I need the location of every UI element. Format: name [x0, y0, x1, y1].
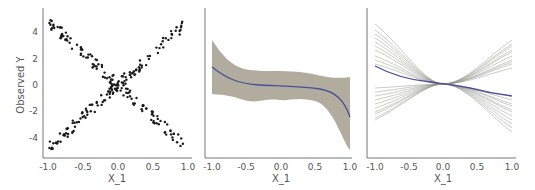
x-tick: -0.5: [74, 162, 92, 172]
x-tick: 0.0: [111, 162, 126, 172]
x-tick: 0.5: [146, 162, 160, 172]
y-tick: 0: [32, 80, 38, 90]
x-tick: 1.0: [343, 162, 358, 172]
y-tick: 2: [32, 54, 38, 64]
x-tick: 0.0: [436, 162, 451, 172]
x-tick: -0.5: [237, 162, 255, 172]
x-tick: 0.0: [274, 162, 289, 172]
x-tick: -1.0: [203, 162, 221, 172]
sample-curves: [375, 24, 512, 132]
x-tick: -1.0: [39, 162, 57, 172]
y-tick: 4: [32, 27, 38, 37]
x-tick: 1.0: [181, 162, 196, 172]
x-tick: 0.5: [308, 162, 322, 172]
x-tick: -1.0: [366, 162, 384, 172]
x-axis-label: X_1: [434, 173, 452, 185]
panel-1-scatter: 4 2 0 -2 -4 -1.0 -0.5 0.0 0.5 1.0 X_1 Ob…: [15, 8, 195, 185]
y-axis-label: Observed Y: [15, 55, 26, 113]
panel-2-mean-band: -1.0 -0.5 0.0 0.5 1.0 X_1: [203, 8, 357, 185]
panel-3-samples: -1.0 -0.5 0.0 0.5 1.0 X_1: [366, 8, 519, 185]
x-tick: 0.5: [470, 162, 484, 172]
y-tick: -4: [29, 133, 38, 143]
x-tick: 1.0: [505, 162, 520, 172]
x-axis-label: X_1: [272, 173, 290, 185]
y-tick: -2: [29, 106, 38, 116]
x-axis-label: X_1: [108, 173, 126, 185]
confidence-band: [212, 40, 350, 150]
figure: 4 2 0 -2 -4 -1.0 -0.5 0.0 0.5 1.0 X_1 Ob…: [0, 0, 535, 190]
scatter-points: [48, 19, 184, 150]
x-tick: -0.5: [400, 162, 418, 172]
